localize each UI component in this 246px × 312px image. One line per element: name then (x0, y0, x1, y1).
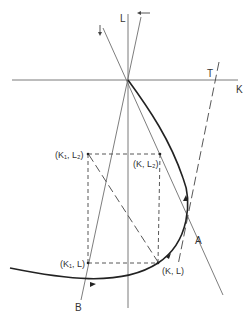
trajectory-curve (10, 80, 188, 279)
line-a-label: A (195, 235, 202, 246)
label-k-l2: (K, L₂) (133, 159, 159, 169)
label-k1-l2: (K₁, L₂) (55, 150, 84, 160)
label-k1-l: (K₁, L) (60, 259, 85, 269)
k-axis-label: K (236, 84, 243, 95)
line-a (103, 28, 223, 295)
curve-arrow-icon (90, 282, 96, 287)
line-b-label: B (75, 302, 82, 312)
tangent-label: T (207, 68, 213, 79)
point-k1-l2 (87, 153, 90, 156)
phase-diagram: L K T A B (K₁, L₂) (K, L₂) (K₁, L) (K, L… (0, 0, 246, 312)
l-axis-label: L (120, 13, 126, 24)
dashed-diagonal (89, 155, 158, 262)
label-k-l: (K, L) (162, 266, 184, 276)
down-arrow-icon (98, 25, 102, 36)
line-b (81, 17, 141, 300)
point-k1-l (87, 262, 90, 265)
point-k-l (157, 262, 160, 265)
left-arrow-icon (137, 11, 150, 15)
point-k-l2 (159, 153, 162, 156)
